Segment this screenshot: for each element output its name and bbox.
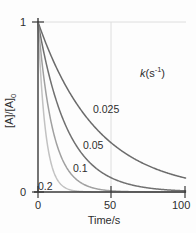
x-tick-label-50: 50 <box>104 200 116 211</box>
legend-title: k(s-1) <box>140 66 165 79</box>
y-tick-label-0: 0 <box>20 187 26 198</box>
legend-unit-open: (s <box>146 67 155 79</box>
kinetics-decay-figure: 1 0 0 50 100 [A]/[A]0 Time/s k(s-1) 0.02… <box>0 0 196 233</box>
y-axis-title-main: [A]/[A] <box>3 98 15 128</box>
x-tick-label-100: 100 <box>172 200 190 211</box>
legend-unit-close: ) <box>161 67 165 79</box>
series-label-0.1: 0.1 <box>73 163 88 174</box>
y-axis-title-subscript: 0 <box>9 94 18 98</box>
series-label-0.025: 0.025 <box>93 104 119 115</box>
plot-canvas <box>0 0 196 233</box>
series-label-0.2: 0.2 <box>38 181 53 192</box>
y-axis-title: [A]/[A]0 <box>4 80 18 142</box>
y-tick-label-1: 1 <box>20 17 26 28</box>
x-axis-title: Time/s <box>64 215 144 226</box>
x-tick-label-0: 0 <box>35 200 41 211</box>
series-label-0.05: 0.05 <box>83 140 103 151</box>
